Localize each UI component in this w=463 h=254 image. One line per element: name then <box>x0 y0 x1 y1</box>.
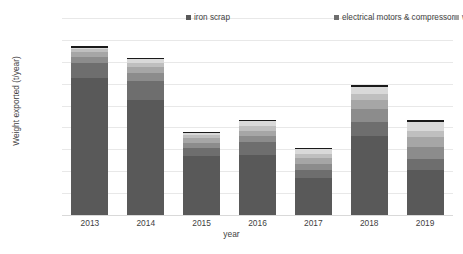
gridline <box>62 62 453 63</box>
x-axis-tick-2015: 2015 <box>174 218 230 228</box>
legend-swatch-icon <box>454 15 459 20</box>
bar-2015[interactable] <box>183 132 220 215</box>
x-axis-tick-2017: 2017 <box>285 218 341 228</box>
bar-segment-electrical-motors-compressors[interactable] <box>407 159 444 170</box>
bar-segment-aluminum-scrap[interactable] <box>127 73 164 81</box>
bar-2013[interactable] <box>71 46 108 215</box>
bar-segment-iron-scrap[interactable] <box>71 78 108 215</box>
bar-2017[interactable] <box>295 148 332 215</box>
gridline <box>62 84 453 85</box>
legend-item-wire-scrap[interactable]: wire scrap <box>454 13 463 22</box>
bar-segment-electrical-motors-compressors[interactable] <box>239 142 276 155</box>
gridline <box>62 40 453 41</box>
legend-item-label: electrical motors & compressors <box>342 13 458 22</box>
stacked-bar-chart: Weight exported (t/year) 02004006008001,… <box>0 0 463 254</box>
bar-segment-stainless-steel[interactable] <box>407 122 444 131</box>
bar-2014[interactable] <box>127 58 164 215</box>
bar-segment-iron-scrap[interactable] <box>407 170 444 215</box>
legend-swatch-icon <box>186 15 191 20</box>
x-axis-tick-2019: 2019 <box>397 218 453 228</box>
y-axis-title: Weight exported (t/year) <box>11 31 21 171</box>
x-axis-tick-2018: 2018 <box>341 218 397 228</box>
plot-area: 02004006008001,0001,2001,4001,6001,80020… <box>62 18 453 215</box>
bar-segment-electrical-motors-compressors[interactable] <box>127 81 164 100</box>
bar-segment-electrical-motors-compressors[interactable] <box>351 122 388 136</box>
x-axis-title: year <box>0 229 463 239</box>
bar-segment-iron-scrap[interactable] <box>127 100 164 215</box>
bar-segment-iron-scrap[interactable] <box>239 155 276 215</box>
x-axis-tick-2013: 2013 <box>62 218 118 228</box>
legend-item-electrical-motors-compressors[interactable]: electrical motors & compressors <box>334 13 454 22</box>
bar-segment-wire-scrap[interactable] <box>351 100 388 110</box>
bar-segment-aluminum-scrap[interactable] <box>351 109 388 122</box>
bar-segment-aluminum-scrap[interactable] <box>407 147 444 159</box>
bar-segment-electrical-motors-compressors[interactable] <box>71 63 108 77</box>
gridline <box>62 106 453 107</box>
bar-segment-electrical-motors-compressors[interactable] <box>295 170 332 179</box>
bar-2019[interactable] <box>407 120 444 215</box>
bar-2018[interactable] <box>351 85 388 215</box>
bar-segment-electrical-motors-compressors[interactable] <box>183 148 220 156</box>
bar-segment-wire-scrap[interactable] <box>407 137 444 146</box>
gridline <box>62 215 453 216</box>
bar-2016[interactable] <box>239 120 276 215</box>
x-axis-tick-2014: 2014 <box>118 218 174 228</box>
legend-item-iron-scrap[interactable]: iron scrap <box>186 13 334 22</box>
bar-segment-iron-scrap[interactable] <box>183 156 220 215</box>
legend-item-label: iron scrap <box>194 13 230 22</box>
legend-swatch-icon <box>334 15 339 20</box>
bar-segment-iron-scrap[interactable] <box>351 136 388 215</box>
bar-segment-iron-scrap[interactable] <box>295 178 332 215</box>
chart-legend: iron scrapelectrical motors & compressor… <box>186 11 454 24</box>
x-axis-tick-2016: 2016 <box>230 218 286 228</box>
